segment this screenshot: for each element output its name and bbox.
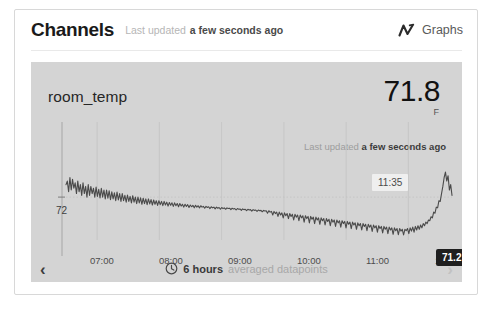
header-last-updated-value: a few seconds ago (190, 24, 283, 36)
axis-lines (58, 122, 65, 256)
header-last-updated-prefix: Last updated (125, 24, 186, 36)
next-range-button[interactable]: › (447, 261, 453, 278)
clock-icon (165, 262, 178, 275)
header-last-updated: Last updated a few seconds ago (125, 24, 283, 36)
line-chart-icon (398, 23, 415, 38)
footer-range-label: 6 hours (183, 263, 223, 275)
ytick-label: 72 (56, 205, 67, 216)
graph-panel: room_temp 71.8 F Last updated a few seco… (31, 62, 462, 282)
footer-description: averaged datapoints (228, 263, 328, 275)
graphs-link[interactable]: Graphs (398, 23, 463, 38)
prev-range-button[interactable]: ‹ (40, 261, 46, 278)
plot-area[interactable] (31, 62, 462, 282)
page-title: Channels (31, 19, 114, 41)
time-marker-label: 11:35 (372, 174, 408, 191)
plot-svg (31, 62, 462, 282)
graph-footer: 6 hours averaged datapoints (31, 255, 462, 282)
channels-card: Channels Last updated a few seconds ago … (14, 9, 478, 295)
card-header: Channels Last updated a few seconds ago … (15, 10, 477, 50)
app-root: Channels Last updated a few seconds ago … (0, 0, 493, 317)
graphs-link-label: Graphs (422, 23, 463, 37)
header-divider (31, 50, 462, 51)
